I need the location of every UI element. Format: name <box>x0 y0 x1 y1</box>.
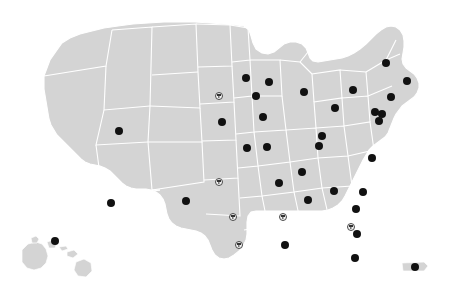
map-marker-filled-31[interactable] <box>411 263 419 271</box>
map-marker-filled-7[interactable] <box>331 104 339 112</box>
map-marker-filled-11[interactable] <box>403 77 411 85</box>
map-marker-filled-13[interactable] <box>387 93 395 101</box>
map-marker-filled-12[interactable] <box>349 86 357 94</box>
map-marker-filled-16[interactable] <box>375 117 383 125</box>
location-markers-layer <box>0 0 452 306</box>
map-marker-filled-0[interactable] <box>242 74 250 82</box>
map-marker-filled-4[interactable] <box>218 118 226 126</box>
map-marker-filled-1[interactable] <box>265 78 273 86</box>
map-marker-filled-29[interactable] <box>352 205 360 213</box>
map-marker-filled-32[interactable] <box>51 237 59 245</box>
map-marker-filled-10[interactable] <box>382 59 390 67</box>
map-marker-filled-27[interactable] <box>281 241 289 249</box>
map-marker-open-5[interactable] <box>347 223 355 231</box>
map-marker-filled-3[interactable] <box>259 113 267 121</box>
map-marker-filled-24[interactable] <box>330 187 338 195</box>
map-marker-filled-21[interactable] <box>298 168 306 176</box>
map-marker-filled-26[interactable] <box>304 196 312 204</box>
us-location-map <box>0 0 452 306</box>
map-marker-open-2[interactable] <box>229 213 237 221</box>
map-marker-filled-2[interactable] <box>252 92 260 100</box>
map-marker-filled-8[interactable] <box>318 132 326 140</box>
map-marker-open-0[interactable] <box>215 92 223 100</box>
map-marker-open-1[interactable] <box>215 178 223 186</box>
map-marker-filled-22[interactable] <box>368 154 376 162</box>
map-marker-filled-23[interactable] <box>275 179 283 187</box>
map-marker-filled-20[interactable] <box>182 197 190 205</box>
map-marker-filled-9[interactable] <box>315 142 323 150</box>
map-marker-filled-6[interactable] <box>300 88 308 96</box>
map-marker-open-3[interactable] <box>235 241 243 249</box>
map-marker-filled-19[interactable] <box>107 199 115 207</box>
map-marker-filled-17[interactable] <box>243 144 251 152</box>
map-marker-filled-30[interactable] <box>351 254 359 262</box>
map-marker-filled-5[interactable] <box>115 127 123 135</box>
map-marker-filled-18[interactable] <box>263 143 271 151</box>
map-marker-open-4[interactable] <box>279 213 287 221</box>
map-marker-filled-28[interactable] <box>353 230 361 238</box>
map-marker-filled-25[interactable] <box>359 188 367 196</box>
